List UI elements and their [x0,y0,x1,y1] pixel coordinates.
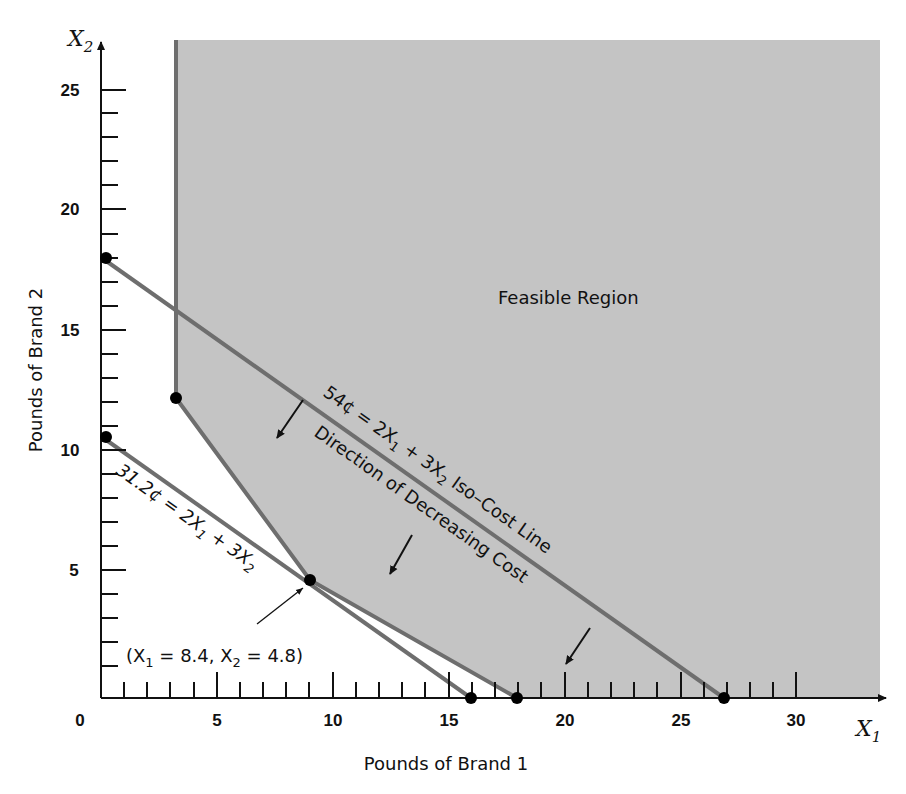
lp-graph: 5 10 15 20 25 0 5 10 15 20 25 30 X2 X1 P… [0,0,906,794]
svg-text:25: 25 [61,81,80,100]
y-axis-ticks [101,90,126,666]
point-27-0 [718,692,730,704]
point-0-10-4 [100,431,112,443]
origin-label: 0 [75,711,84,730]
svg-text:5: 5 [212,711,221,730]
point-0-18 [100,252,112,264]
x-axis-variable: X1 [854,716,881,746]
optimal-point-pointer [257,588,303,624]
x-tick-labels: 5 10 15 20 25 30 [212,711,805,730]
svg-text:15: 15 [61,321,80,340]
optimal-point [304,574,316,586]
svg-text:20: 20 [556,711,575,730]
y-axis-title: Pounds of Brand 2 [25,288,46,452]
svg-text:10: 10 [324,711,343,730]
feasible-region [176,40,880,698]
point-15-6-0 [465,692,477,704]
point-18-0 [511,692,523,704]
point-3-2-12-1 [170,392,182,404]
svg-text:5: 5 [69,561,78,580]
feasible-region-label: Feasible Region [498,287,639,308]
y-tick-labels: 5 10 15 20 25 [61,81,80,580]
svg-text:10: 10 [61,441,80,460]
svg-text:25: 25 [672,711,691,730]
y-axis-variable: X2 [66,26,93,56]
x-axis-title: Pounds of Brand 1 [364,753,528,774]
svg-text:15: 15 [440,711,459,730]
svg-text:30: 30 [787,711,806,730]
optimal-point-label: (X1 = 8.4, X2 = 4.8) [126,645,303,670]
svg-text:20: 20 [61,200,80,219]
